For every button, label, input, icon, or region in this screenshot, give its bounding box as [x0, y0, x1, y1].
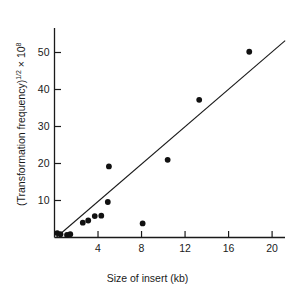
- scatter-plot: 102030405048121620: [0, 0, 295, 298]
- data-point: [67, 231, 73, 237]
- x-tick-label: 12: [179, 242, 191, 254]
- data-point: [80, 220, 86, 226]
- data-point: [92, 213, 98, 219]
- data-point: [196, 97, 202, 103]
- y-axis-title: (Transformation frequency)1/2 × 108: [15, 24, 28, 224]
- y-tick-label: 50: [38, 46, 50, 58]
- data-point: [165, 157, 171, 163]
- y-axis-title-mid: × 10: [15, 46, 27, 70]
- fit-line: [56, 41, 285, 238]
- data-point: [98, 213, 104, 219]
- regression-line: [56, 41, 285, 238]
- x-tick-label: 20: [266, 242, 278, 254]
- y-tick-label: 10: [38, 194, 50, 206]
- data-points: [54, 49, 252, 238]
- y-tick-label: 40: [38, 83, 50, 95]
- y-axis-title-pre: (Transformation frequency): [15, 80, 27, 206]
- x-tick-label: 4: [95, 242, 101, 254]
- x-tick-label: 16: [223, 242, 235, 254]
- data-point: [58, 231, 64, 237]
- y-axis-exponent-eight: 8: [15, 42, 22, 46]
- y-tick-label: 30: [38, 120, 50, 132]
- data-point: [140, 221, 146, 227]
- data-point: [106, 164, 112, 170]
- x-axis-title: Size of insert (kb): [0, 272, 295, 284]
- data-point: [85, 218, 91, 224]
- axes-group: [55, 28, 286, 238]
- data-point: [105, 199, 111, 205]
- figure-container: 102030405048121620 (Transformation frequ…: [0, 0, 295, 298]
- y-tick-label: 20: [38, 157, 50, 169]
- y-axis-exponent-half: 1/2: [15, 70, 22, 80]
- data-point: [246, 49, 252, 55]
- x-tick-label: 8: [139, 242, 145, 254]
